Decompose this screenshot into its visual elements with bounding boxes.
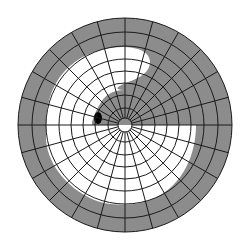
visual-field-chart [0,0,246,248]
